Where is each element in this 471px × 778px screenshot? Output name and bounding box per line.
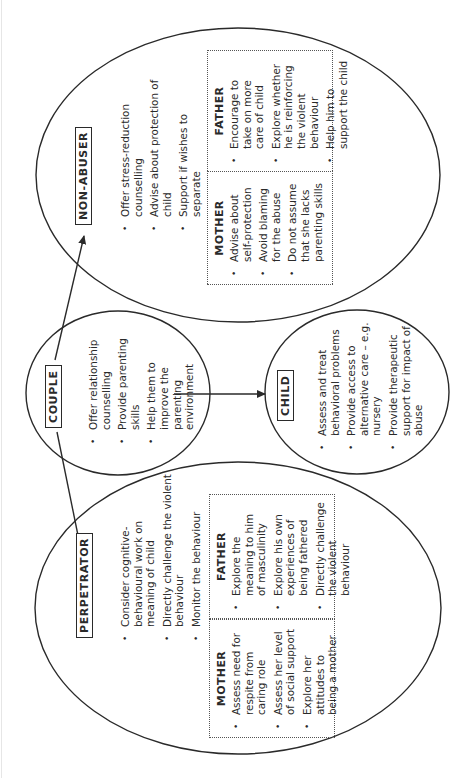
couple-item: Offer relationship counselling	[87, 321, 112, 446]
child-item: Provide access to alternative care – e.g…	[345, 322, 383, 452]
perpetrator-item: Directly challenge the violent behaviour	[161, 473, 186, 643]
perpetrator-father-item: Explore his own experiences of being fat…	[272, 501, 310, 612]
couple-item: Provide parenting skills	[116, 321, 141, 446]
couple-title: COUPLE	[45, 365, 62, 428]
non-abuser-mother-item: Do not assume that she lacks parenting s…	[286, 178, 324, 278]
non-abuser-item: Support if wishes to separate	[177, 68, 202, 233]
perpetrator-title: PERPETRATOR	[76, 533, 93, 638]
perpetrator-father-item: Explore the meaning to him of masculinit…	[230, 501, 268, 612]
non-abuser-father-item: Help him to support the child	[324, 57, 349, 165]
non-abuser-father-item: Encourage to take on more care of child	[228, 57, 266, 165]
perpetrator-father-item: Directly challenge the violent behaviour	[314, 501, 352, 612]
non-abuser-mother-item: Advise about self-protection	[228, 178, 253, 278]
non-abuser-father-title: FATHER	[213, 57, 226, 165]
non-abuser-mother-box: MOTHER Advise about self-protection Avoi…	[207, 171, 333, 285]
child-list: Assess and treat behavioral problems Pro…	[316, 322, 429, 452]
perpetrator-mother-title: MOTHER	[215, 626, 228, 731]
non-abuser-item: Advise about protection of child	[148, 68, 173, 233]
non-abuser-mother-item: Avoid blaming for the abuse	[257, 178, 282, 278]
perpetrator-item: Consider cognitive-behavioural work on m…	[119, 473, 157, 643]
perpetrator-father-title: FATHER	[215, 501, 228, 612]
perpetrator-list: Consider cognitive-behavioural work on m…	[119, 473, 207, 643]
perpetrator-mother-box: MOTHER Assess need for respite from cari…	[209, 619, 335, 738]
couple-item: Help them to improve the parenting envir…	[145, 321, 195, 446]
child-item: Provide therapeutic support for impact o…	[387, 322, 425, 452]
child-item: Assess and treat behavioral problems	[316, 322, 341, 452]
non-abuser-list: Offer stress-reduction counselling Advis…	[119, 68, 207, 233]
perpetrator-mother-item: Assess need for respite from caring role	[230, 626, 268, 731]
non-abuser-father-item: Explore whether he is reinforcing the vi…	[270, 57, 320, 165]
perpetrator-item: Monitor the behaviour	[190, 473, 203, 643]
perpetrator-mother-item: Assess her level of social support	[272, 626, 297, 731]
non-abuser-father-box: FATHER Encourage to take on more care of…	[207, 50, 333, 172]
non-abuser-mother-title: MOTHER	[213, 178, 226, 278]
child-title: CHILD	[277, 370, 294, 421]
non-abuser-item: Offer stress-reduction counselling	[119, 68, 144, 233]
couple-list: Offer relationship counselling Provide p…	[87, 321, 200, 446]
rotated-diagram-text: NON-ABUSER Offer stress-reduction counse…	[0, 0, 471, 778]
perpetrator-mother-item: Explore her attitudes to being a mother	[301, 626, 339, 731]
perpetrator-father-box: FATHER Explore the meaning to him of mas…	[209, 494, 335, 619]
non-abuser-title: NON-ABUSER	[75, 127, 92, 225]
